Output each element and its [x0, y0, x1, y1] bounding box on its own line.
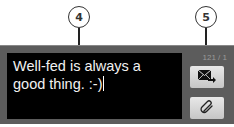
- callout-4: 4: [68, 6, 90, 28]
- send-button[interactable]: [190, 66, 224, 88]
- message-text: Well-fed is always a good thing. :-): [13, 58, 141, 92]
- character-counter: 121 / 1: [191, 53, 227, 62]
- paperclip-icon: [200, 99, 214, 118]
- text-cursor: [103, 76, 104, 91]
- callout-5: 5: [195, 6, 217, 28]
- send-message-icon: [198, 68, 216, 87]
- message-composer-panel: Well-fed is always a good thing. :-) 121…: [0, 45, 234, 124]
- message-text-field[interactable]: Well-fed is always a good thing. :-): [7, 53, 182, 119]
- attach-button[interactable]: [190, 97, 224, 119]
